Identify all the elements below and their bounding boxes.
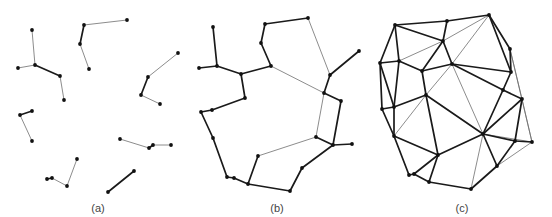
graph-edge: [261, 24, 265, 43]
graph-edge: [302, 145, 333, 168]
graph-node: [87, 67, 91, 71]
graph-node: [328, 73, 332, 77]
graph-edge: [108, 171, 134, 192]
graph-edge: [32, 30, 35, 65]
panel-c-triangulation: [378, 13, 534, 191]
graph-edge: [324, 93, 341, 101]
graph-node: [450, 62, 454, 66]
graph-node: [146, 75, 150, 79]
graph-node: [288, 189, 292, 193]
graph-node: [424, 93, 428, 97]
panel-c-label: (c): [456, 202, 469, 214]
graph-node: [441, 39, 445, 43]
graph-edge: [316, 137, 333, 145]
graph-node: [263, 22, 267, 26]
graph-edge: [199, 66, 217, 68]
graph-node: [246, 182, 250, 186]
graph-edge: [18, 65, 35, 68]
graph-node: [427, 180, 431, 184]
graph-edge: [438, 134, 483, 155]
graph-node: [300, 166, 304, 170]
graph-edge: [212, 98, 245, 110]
graph-node: [225, 175, 229, 179]
graph-node: [132, 169, 136, 173]
graph-edge: [35, 65, 60, 76]
graph-node: [78, 42, 82, 46]
graph-edge: [308, 18, 330, 75]
graph-node: [445, 19, 449, 23]
graph-edge: [510, 49, 511, 72]
graph-edge: [395, 25, 443, 41]
graph-node: [197, 66, 201, 70]
graph-edge: [426, 95, 438, 155]
graph-node: [210, 108, 214, 112]
graph-edge: [316, 93, 324, 137]
graph-edge: [489, 15, 511, 72]
graph-edge: [241, 74, 245, 98]
graph-node: [393, 23, 397, 27]
graph-node: [322, 91, 326, 95]
graph-node: [147, 146, 151, 150]
graph-edge: [213, 138, 227, 177]
graph-edge: [447, 15, 489, 21]
graph-node: [211, 25, 215, 29]
graph-node: [378, 61, 382, 65]
graph-node: [151, 143, 155, 147]
graph-node: [211, 136, 215, 140]
graph-edge: [522, 99, 532, 142]
graph-edge: [429, 182, 471, 189]
graph-edge: [483, 90, 503, 134]
graph-node: [232, 176, 236, 180]
graph-edge: [380, 25, 395, 63]
graph-node: [199, 110, 203, 114]
graph-edge: [265, 18, 308, 24]
graph-node: [176, 51, 180, 55]
graph-edge: [241, 66, 271, 74]
graph-edge: [261, 43, 271, 66]
graph-node: [106, 190, 110, 194]
graph-edge: [52, 178, 67, 186]
graph-node: [62, 98, 66, 102]
graph-edge: [333, 144, 352, 145]
graph-node: [82, 23, 86, 27]
graph-node: [420, 69, 424, 73]
graph-edge: [141, 95, 160, 104]
graph-node: [75, 157, 79, 161]
graph-node: [412, 172, 416, 176]
graph-edge: [443, 21, 447, 41]
graph-node: [33, 63, 37, 67]
graph-edge: [503, 72, 511, 90]
graph-edge: [483, 134, 515, 141]
graph-edge: [497, 141, 515, 166]
graph-node: [509, 70, 513, 74]
graph-edge: [148, 53, 178, 77]
graph-node: [357, 49, 361, 53]
graph-edge: [333, 101, 341, 145]
graph-edge: [395, 25, 399, 61]
graph-edge: [399, 61, 422, 71]
graph-node: [469, 187, 473, 191]
graph-node: [513, 139, 517, 143]
graph-edge: [258, 137, 316, 156]
graph-node: [30, 28, 34, 32]
graph-edge: [271, 66, 324, 93]
graph-edge: [380, 61, 399, 63]
graph-node: [501, 88, 505, 92]
graph-edge: [141, 77, 148, 95]
graph-node: [392, 105, 396, 109]
graph-edge: [497, 142, 532, 166]
graph-node: [530, 140, 534, 144]
graph-node: [339, 99, 343, 103]
graph-edge: [422, 71, 426, 95]
graph-node: [380, 107, 384, 111]
graph-node: [65, 184, 69, 188]
graph-edge: [217, 66, 241, 74]
graph-edge: [452, 15, 489, 64]
graph-node: [520, 97, 524, 101]
graph-edge: [330, 51, 359, 75]
graph-edge: [324, 75, 330, 93]
graph-node: [269, 64, 273, 68]
graph-node: [50, 176, 54, 180]
graph-node: [350, 142, 354, 146]
graph-node: [243, 96, 247, 100]
